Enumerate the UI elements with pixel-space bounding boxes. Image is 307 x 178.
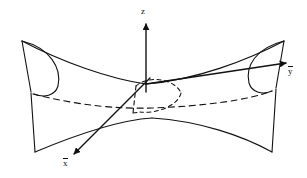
y-axis-label-text: y bbox=[288, 66, 293, 76]
lower-silhouette-right bbox=[152, 118, 272, 152]
left-rim-lower-edge bbox=[31, 93, 35, 152]
throat-radius-left-dashed bbox=[133, 86, 136, 113]
y-axis-label: y bbox=[288, 66, 293, 76]
hyperboloid-diagram-canvas bbox=[0, 0, 307, 178]
x-axis bbox=[74, 78, 150, 154]
y-axis bbox=[146, 63, 286, 84]
axes-group bbox=[74, 24, 286, 154]
z-axis-label-text: z bbox=[141, 6, 145, 16]
upper-silhouette-right bbox=[146, 41, 284, 84]
right-rim-lower-edge bbox=[272, 89, 276, 152]
x-axis-label-text: x bbox=[63, 158, 68, 168]
right-rim-front-arc bbox=[248, 41, 284, 93]
surface-group bbox=[22, 41, 284, 152]
hyperboloid-figure: z y x bbox=[0, 0, 307, 178]
x-axis-label: x bbox=[63, 158, 68, 168]
z-axis-label: z bbox=[141, 7, 145, 16]
left-rim-front-arc bbox=[22, 41, 59, 96]
upper-silhouette-left bbox=[22, 41, 146, 84]
throat-radius-bottom-dashed bbox=[133, 112, 140, 113]
left-rim-upper-edge bbox=[22, 41, 31, 92]
throat-ellipse-front-dashed bbox=[140, 93, 181, 112]
throat-back-edge-dashed bbox=[33, 91, 272, 108]
